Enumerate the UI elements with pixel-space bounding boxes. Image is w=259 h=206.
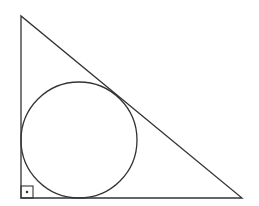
right-triangle [21, 16, 242, 198]
geometry-diagram [0, 0, 259, 206]
inscribed-circle [21, 82, 137, 198]
right-angle-dot [26, 191, 29, 194]
